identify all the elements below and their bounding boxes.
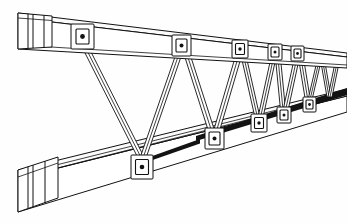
bolt-head-icon — [180, 44, 184, 48]
web-member-3-crease — [185, 48, 213, 136]
connector-plate-top-1[interactable] — [71, 24, 94, 49]
connector-plate-top-4[interactable] — [268, 44, 282, 60]
bolt-head-icon — [308, 103, 311, 106]
connector-plate-bottom-4[interactable] — [277, 107, 291, 123]
bolt-head-icon — [283, 114, 286, 117]
bolt-head-icon — [296, 52, 299, 55]
drawing-canvas: Open-web truss joist perspective line dr… — [0, 0, 347, 223]
truss-joist-drawing — [0, 0, 347, 223]
connector-plate-top-2[interactable] — [172, 35, 191, 56]
bottom-chord — [18, 88, 347, 212]
connector-plate-top-5[interactable] — [291, 46, 304, 61]
bolt-head-icon — [274, 51, 277, 54]
connector-plate-bottom-3[interactable] — [251, 114, 267, 132]
connector-plate-bottom-5[interactable] — [303, 97, 316, 112]
bottom-chord-front-face — [18, 96, 347, 212]
web-member-1-crease — [85, 47, 141, 158]
connector-plate-bottom-1[interactable] — [131, 155, 153, 179]
bolt-head-icon — [80, 34, 85, 39]
connector-plate-top-3[interactable] — [232, 40, 248, 58]
bolt-head-icon — [213, 137, 217, 141]
bolt-head-icon — [257, 121, 260, 124]
bolt-head-icon — [238, 47, 241, 50]
bolt-head-icon — [140, 165, 145, 170]
connector-plate-bottom-2[interactable] — [205, 128, 224, 149]
